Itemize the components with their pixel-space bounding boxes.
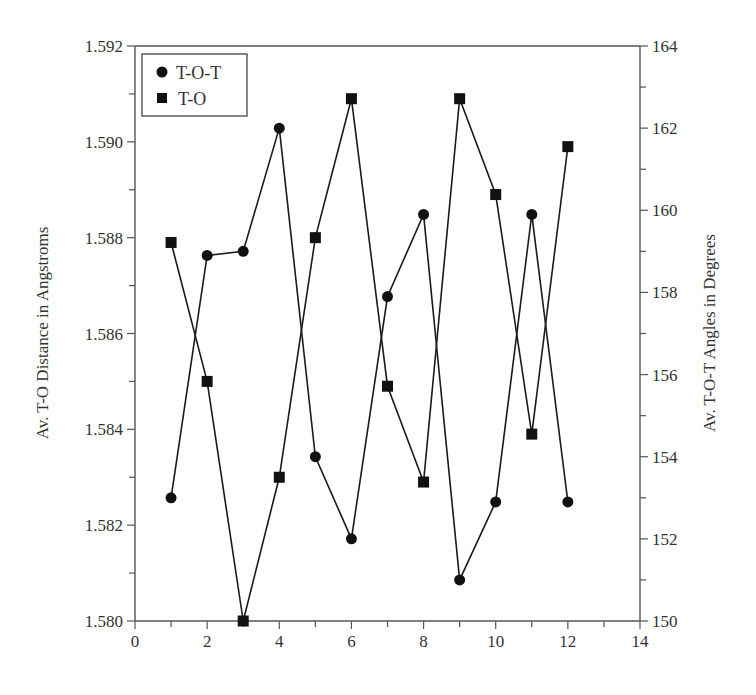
y-left-tick-label: 1.592 — [85, 37, 123, 56]
circle-marker-icon — [157, 67, 168, 78]
data-point-circle — [526, 209, 537, 220]
legend: T-O-T T-O — [142, 54, 247, 116]
data-point-square — [202, 376, 213, 387]
data-point-square — [490, 189, 501, 200]
data-point-square — [526, 429, 537, 440]
y-left-tick-label: 1.582 — [85, 516, 123, 535]
x-tick-label: 14 — [632, 632, 650, 651]
data-point-square — [166, 237, 177, 248]
data-point-circle — [310, 451, 321, 462]
chart-canvas: 024681012141.5801.5821.5841.5861.5881.59… — [0, 0, 756, 695]
data-point-circle — [562, 496, 573, 507]
x-tick-label: 0 — [131, 632, 140, 651]
series-layer — [166, 93, 574, 626]
data-point-circle — [274, 123, 285, 134]
x-tick-label: 4 — [275, 632, 284, 651]
data-point-square — [346, 93, 357, 104]
y-right-tick-label: 156 — [652, 366, 678, 385]
data-point-circle — [490, 496, 501, 507]
y-right-tick-label: 164 — [652, 37, 678, 56]
y-right-tick-label: 154 — [652, 448, 678, 467]
data-point-square — [382, 381, 393, 392]
y-right-tick-label: 162 — [652, 119, 678, 138]
data-point-circle — [238, 246, 249, 257]
y-right-tick-label: 160 — [652, 201, 678, 220]
y-left-tick-label: 1.586 — [85, 325, 123, 344]
data-point-square — [454, 93, 465, 104]
y-left-tick-label: 1.584 — [85, 420, 124, 439]
legend-label-to: T-O — [178, 89, 206, 109]
y-right-tick-label: 152 — [652, 530, 678, 549]
x-tick-label: 6 — [347, 632, 356, 651]
data-point-square — [562, 141, 573, 152]
x-tick-label: 8 — [419, 632, 428, 651]
axes: 024681012141.5801.5821.5841.5861.5881.59… — [85, 37, 678, 651]
y-left-tick-label: 1.580 — [85, 612, 123, 631]
square-marker-icon — [157, 93, 167, 103]
data-point-circle — [202, 250, 213, 261]
x-tick-label: 2 — [203, 632, 212, 651]
data-point-circle — [166, 492, 177, 503]
y-right-tick-label: 150 — [652, 612, 678, 631]
x-tick-label: 10 — [487, 632, 504, 651]
data-point-circle — [418, 209, 429, 220]
data-point-circle — [454, 574, 465, 585]
x-tick-label: 12 — [559, 632, 576, 651]
y-left-tick-label: 1.588 — [85, 229, 123, 248]
y-right-tick-label: 158 — [652, 283, 678, 302]
series-line-t-o-t — [171, 128, 568, 580]
data-point-square — [238, 616, 249, 627]
series-line-t-o — [171, 99, 568, 621]
data-point-circle — [346, 533, 357, 544]
y-axis-right-title: Av. T-O-T Angles in Degrees — [700, 234, 719, 432]
y-left-tick-label: 1.590 — [85, 133, 123, 152]
y-axis-left-title: Av. T-O Distance in Angstroms — [33, 227, 52, 440]
data-point-circle — [382, 291, 393, 302]
data-point-square — [418, 477, 429, 488]
data-point-square — [310, 232, 321, 243]
legend-label-tot: T-O-T — [176, 63, 221, 83]
data-point-square — [274, 472, 285, 483]
